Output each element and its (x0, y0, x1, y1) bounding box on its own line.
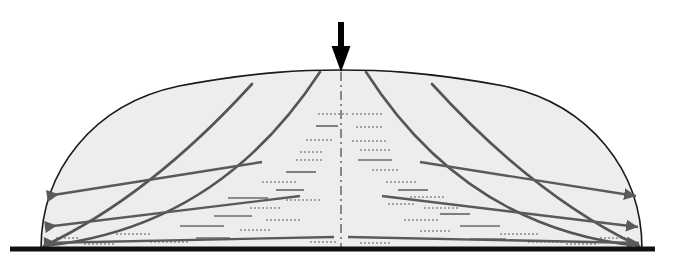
soil-dome-diagram-svg (0, 0, 677, 272)
applied-load-arrow-group (332, 22, 351, 72)
figure-root (0, 0, 677, 272)
applied-load-arrow-head (332, 46, 351, 72)
